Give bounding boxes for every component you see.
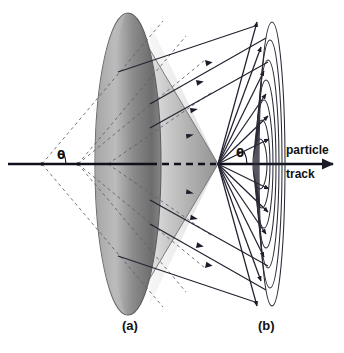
theta-arc-right: [244, 152, 247, 165]
theta-label-right: θ: [236, 146, 244, 160]
panel-caption-a: (a): [122, 318, 138, 333]
arrowhead-icon: [196, 242, 204, 248]
arrowhead-icon: [196, 80, 204, 86]
ray: [218, 22, 257, 164]
arrowhead-icon: [205, 262, 213, 268]
panel-caption-b: (b): [258, 318, 275, 333]
particle-track-label-line2: track: [286, 167, 315, 181]
ray: [218, 164, 257, 306]
particle-track-label-line1: particle: [286, 143, 329, 157]
arrowhead-icon: [190, 215, 198, 220]
theta-label-left: θ: [57, 148, 65, 162]
arrowhead-icon: [205, 60, 213, 66]
arrowhead-icon: [190, 108, 198, 113]
ray: [218, 164, 268, 212]
